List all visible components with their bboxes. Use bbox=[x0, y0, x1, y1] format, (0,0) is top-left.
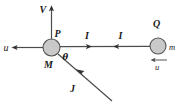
velocity-V-vector bbox=[49, 5, 54, 40]
impulse-J-label: J bbox=[69, 83, 76, 94]
left-body-circle bbox=[43, 39, 60, 56]
velocity-V-label: V bbox=[40, 4, 48, 15]
impulse-I-right-label: I bbox=[84, 30, 90, 41]
angle-theta-label: θ bbox=[63, 52, 69, 62]
mass-m-label: m bbox=[169, 42, 175, 52]
vector-diagram-canvas: V u P M θ I I J Q m u bbox=[0, 0, 187, 104]
velocity-u-bar-label: u bbox=[155, 62, 159, 72]
impulse-I-left-label: I bbox=[118, 30, 124, 41]
point-Q-label: Q bbox=[153, 18, 160, 29]
velocity-u-left-label: u bbox=[4, 42, 9, 53]
mass-M-label: M bbox=[43, 59, 54, 70]
point-P-label: P bbox=[55, 28, 62, 39]
physics-figure: V u P M θ I I J Q m u bbox=[0, 0, 187, 104]
right-body-circle bbox=[150, 38, 166, 54]
velocity-u-left-vector bbox=[12, 45, 45, 50]
